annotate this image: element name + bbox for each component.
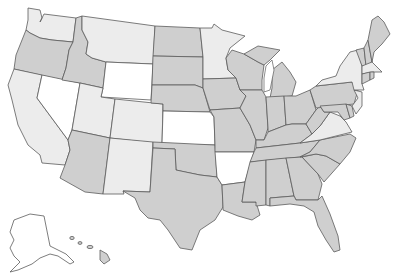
state-hawaii-maui[interactable]: Hawaii (87, 245, 93, 248)
state-maine[interactable]: Maine (368, 16, 390, 62)
state-south-dakota[interactable]: South Dakota (152, 56, 203, 88)
us-map-svg: Washington Oregon California Nevada Idah… (0, 0, 405, 277)
state-north-dakota[interactable]: North Dakota (153, 26, 203, 57)
state-wyoming[interactable]: Wyoming (101, 62, 153, 100)
state-florida[interactable]: Florida (270, 196, 340, 252)
state-colorado[interactable]: Colorado (110, 99, 163, 144)
state-new-mexico[interactable]: New Mexico (103, 138, 153, 194)
state-hawaii-oahu[interactable]: Hawaii (78, 242, 82, 245)
state-hawaii-group: Hawaii Hawaii Hawaii Hawaii (70, 236, 110, 264)
state-connecticut[interactable]: Connecticut (362, 72, 370, 84)
state-hawaii-big-island[interactable]: Hawaii (100, 250, 110, 264)
us-map: Washington Oregon California Nevada Idah… (0, 0, 405, 277)
state-montana[interactable]: Montana (82, 16, 155, 64)
state-rhode-island[interactable]: Rhode Island (370, 72, 374, 80)
state-hawaii-kauai[interactable]: Hawaii (70, 236, 74, 239)
state-alaska[interactable]: Alaska (10, 214, 74, 272)
state-kansas[interactable]: Kansas (162, 111, 215, 145)
